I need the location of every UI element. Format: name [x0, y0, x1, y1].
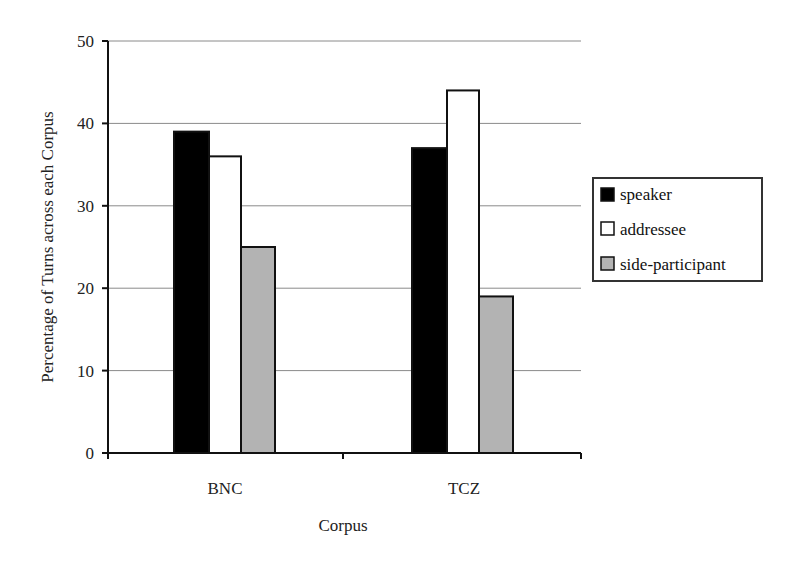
x-axis-title: Corpus: [318, 516, 367, 535]
bar-bnc-addressee: [209, 156, 241, 453]
bar-bnc-side-participant: [241, 247, 275, 453]
legend-swatch-side-participant: [601, 257, 614, 270]
y-tick-label: 40: [77, 114, 94, 133]
bars: [174, 90, 513, 453]
legend: speaker addressee side-participant: [593, 178, 762, 281]
bar-tcz-side-participant: [479, 296, 513, 453]
y-axis-ticks: 01020304050: [77, 32, 108, 463]
legend-label-speaker: speaker: [620, 185, 672, 204]
legend-swatch-addressee: [601, 222, 614, 235]
legend-swatch-speaker: [601, 188, 614, 201]
bar-chart: 01020304050 BNC TCZ Corpus Percentage of…: [0, 0, 799, 564]
legend-label-addressee: addressee: [620, 220, 686, 239]
y-tick-label: 0: [86, 444, 95, 463]
y-axis-title: Percentage of Turns across each Corpus: [38, 111, 57, 382]
bar-bnc-speaker: [174, 132, 209, 453]
bar-tcz-addressee: [447, 90, 479, 453]
y-tick-label: 20: [77, 279, 94, 298]
y-tick-label: 50: [77, 32, 94, 51]
x-label-bnc: BNC: [208, 479, 243, 498]
bar-tcz-speaker: [412, 148, 447, 453]
x-label-tcz: TCZ: [448, 479, 480, 498]
y-tick-label: 10: [77, 362, 94, 381]
legend-label-side-participant: side-participant: [620, 255, 726, 274]
y-tick-label: 30: [77, 197, 94, 216]
